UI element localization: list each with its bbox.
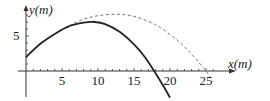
y-tick-label-5: 5 [13,28,20,43]
y-axis-arrow-icon [24,5,29,11]
x-tick-label-5: 5 [59,73,66,88]
x-tick-label-20: 20 [164,73,177,88]
x-axis-label: x(m) [227,56,252,71]
projectile-trajectory-chart: y(m) x(m) 5 510152025 [0,0,270,101]
curves [26,14,213,97]
x-tick-label-10: 10 [92,73,105,88]
x-tick-label-15: 15 [128,73,141,88]
x-tick-label-25: 25 [200,73,213,88]
y-axis-label: y(m) [27,2,53,17]
x-tick-labels: 510152025 [59,73,213,88]
